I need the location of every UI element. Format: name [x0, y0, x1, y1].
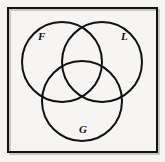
venn-diagram-figure: F L G	[0, 0, 165, 162]
set-label-f: F	[38, 31, 45, 42]
set-label-g: G	[79, 124, 87, 135]
set-label-l: L	[121, 31, 128, 42]
venn-diagram-canvas	[0, 0, 165, 162]
